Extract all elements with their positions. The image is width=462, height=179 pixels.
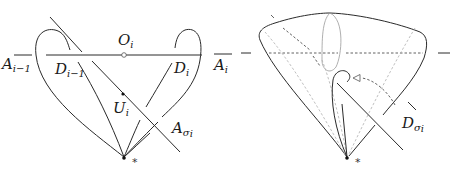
left-panel: Ai−1 Di−1 Oi Di Ai Ui Aσi * <box>0 17 232 169</box>
cone-outline-lower <box>349 125 375 156</box>
label-u: Ui <box>113 99 129 118</box>
right-panel: Dσi * <box>241 13 450 169</box>
label-a-prev: Ai−1 <box>0 55 31 74</box>
label-a: Ai <box>212 56 228 75</box>
long-diagonal <box>337 83 403 150</box>
left-loop <box>36 30 124 157</box>
label-d-prev: Di−1 <box>54 60 85 79</box>
label-d: Di <box>173 59 189 78</box>
topology-figure: Ai−1 Di−1 Oi Di Ai Ui Aσi * <box>0 0 462 179</box>
d-i-strand <box>124 63 172 157</box>
top-tick <box>271 15 274 18</box>
inner-dashed-right <box>348 28 415 156</box>
label-o: Oi <box>118 31 134 50</box>
inner-dashed-left <box>265 32 346 156</box>
dark-dashed-diagonal-1 <box>283 28 310 50</box>
inner-loop <box>332 71 350 157</box>
d-sigma-marker <box>408 102 416 110</box>
label-d-sigma: Dσi <box>401 114 424 134</box>
back-ellipse <box>322 13 341 71</box>
inner-teardrop-line <box>342 104 347 157</box>
o-point <box>122 53 127 58</box>
label-basepoint-left: * <box>132 156 138 169</box>
top-diagonal <box>50 17 82 52</box>
dark-dashed-diagonal-2 <box>313 56 320 66</box>
inner-short-strand <box>124 133 150 157</box>
a-sigma-strand <box>92 61 180 152</box>
basepoint-dot <box>122 156 126 160</box>
hollow-triangle-arrowhead-icon <box>353 75 360 82</box>
dashed-arrow-path <box>362 78 395 105</box>
label-basepoint-right: * <box>355 156 361 169</box>
label-a-sigma: Aσi <box>170 119 193 139</box>
basepoint-dot-right <box>345 156 349 160</box>
u-point <box>121 92 124 95</box>
